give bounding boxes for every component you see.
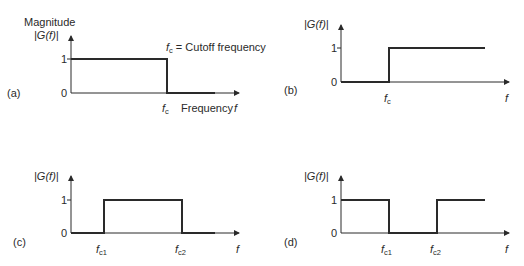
panel-b-xlabel-sub: c bbox=[387, 97, 391, 106]
panel-a-annotation-text: = Cutoff frequency bbox=[173, 41, 266, 53]
panel-d-bandstop bbox=[341, 176, 509, 233]
panel-c-xlabel-fc2-sub: c2 bbox=[178, 248, 186, 257]
panel-b-tag: (b) bbox=[284, 85, 297, 96]
panel-b-xlabel-fc: fc bbox=[384, 93, 391, 106]
panel-d-xlabel-fc1: fc1 bbox=[381, 244, 392, 257]
panel-b-ytick-0: 0 bbox=[331, 77, 337, 88]
panel-c-ytick-0: 0 bbox=[61, 228, 67, 239]
panel-c-xlabel-fc2: fc2 bbox=[175, 244, 186, 257]
panel-d-xlabel-fc2-sub: c2 bbox=[433, 248, 441, 257]
panel-a-x-axis-var: f bbox=[234, 103, 237, 114]
panel-b-highpass bbox=[337, 25, 509, 82]
panel-b-response bbox=[341, 48, 485, 82]
panel-a-response bbox=[71, 59, 215, 93]
panel-d-xlabel-fc2: fc2 bbox=[430, 244, 441, 257]
panel-c-response bbox=[71, 200, 215, 233]
panel-d-tag: (d) bbox=[284, 237, 297, 248]
panel-c-xlabel-fc1-sub: c1 bbox=[99, 248, 107, 257]
panel-c-xlabel-fc1: fc1 bbox=[96, 244, 107, 257]
panel-b-y-label: |G(f)| bbox=[304, 19, 329, 30]
panel-a-ytick-1: 1 bbox=[61, 54, 67, 65]
panel-a-ytick-0: 0 bbox=[61, 88, 67, 99]
panel-a-x-axis-label: Frequency bbox=[181, 103, 233, 114]
panel-a-y-title: Magnitude bbox=[24, 17, 75, 28]
panel-c-y-label: |G(f)| bbox=[34, 171, 59, 182]
panel-d-ytick-1: 1 bbox=[331, 195, 337, 206]
panel-d-x-axis-var: f bbox=[505, 244, 508, 255]
filter-diagram bbox=[0, 0, 524, 266]
panel-a-annotation: fc = Cutoff frequency bbox=[166, 42, 266, 55]
panel-d-y-label: |G(f)| bbox=[304, 171, 329, 182]
panel-c-bandpass bbox=[67, 176, 239, 233]
panel-d-response bbox=[341, 200, 485, 233]
panel-c-tag: (c) bbox=[13, 237, 26, 248]
panel-b-ytick-1: 1 bbox=[331, 43, 337, 54]
panel-c-ytick-1: 1 bbox=[61, 195, 67, 206]
panel-a-xlabel-sub: c bbox=[165, 107, 169, 116]
panel-d-xlabel-fc1-sub: c1 bbox=[384, 248, 392, 257]
panel-a-tag: (a) bbox=[7, 88, 20, 99]
panel-a-xlabel-fc: fc bbox=[162, 103, 169, 116]
panel-d-ytick-0: 0 bbox=[331, 228, 337, 239]
panel-b-x-axis-var: f bbox=[505, 93, 508, 104]
panel-a-y-label: |G(f)| bbox=[34, 30, 59, 41]
panel-c-x-axis-var: f bbox=[236, 244, 239, 255]
